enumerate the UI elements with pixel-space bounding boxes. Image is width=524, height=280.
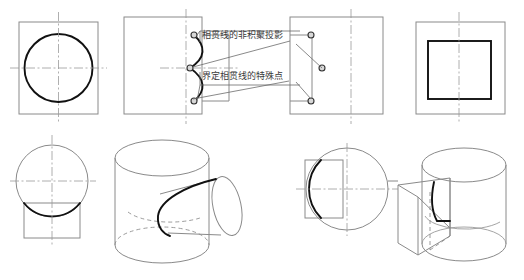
view-top-circle-with-left-rect [296,143,398,236]
iso2-prism-left-face [398,185,418,255]
view-top-rect-in-rect [416,12,505,124]
leader-from-bottom-point [193,81,289,99]
iso1-horizontal-cylinder-face [207,174,247,239]
leader-to-right-bottom-point [296,82,311,99]
leader-to-right-middle-point [296,44,322,68]
view-isometric-cylinder-prism [388,148,506,261]
view-side-intersection-curve [124,9,238,124]
iso2-top-ellipse [422,148,506,182]
iso1-horizontal-bottom-edge [168,233,221,235]
iso2-bottom-back-arc [422,227,506,244]
iso2-bottom-front-arc [422,244,506,261]
leader-upper-bracket [197,31,300,35]
leader-lower-bracket [197,85,300,101]
special-point-middle [187,65,193,71]
iso2-intersection-curve [432,182,450,221]
top-view-inner-rect [428,41,491,99]
iso1-inner-hidden-arc [128,212,200,222]
right-view-special-point-top [308,32,314,38]
iso1-top-ellipse [115,140,209,176]
iso1-bottom-front-arc [115,245,209,263]
technical-drawing-svg: .cline { stroke:#8a8a8a; stroke-width:1;… [0,0,524,280]
leader-from-mid-point [193,41,290,67]
right-view-inner-block [290,35,312,101]
annotation-leader-lines [193,31,322,101]
view-front-circle-in-rect [10,12,107,124]
view-projection-with-leaders [290,9,383,124]
engineering-drawing-canvas: .cline { stroke:#8a8a8a; stroke-width:1;… [0,0,524,280]
special-point-top [191,32,197,38]
view-isometric-cylinder-cylinder [115,140,247,263]
view-top-circle-over-rect [10,135,96,245]
right-view-outline [290,17,383,114]
